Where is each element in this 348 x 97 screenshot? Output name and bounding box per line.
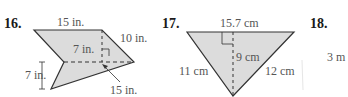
problem-16-base-label: 15 in. <box>110 83 137 97</box>
problem-16-inner-height-label: 7 in. <box>73 42 94 57</box>
problem-17-right-label: 12 cm <box>265 64 295 79</box>
problem-18-side-label: 3 m <box>327 50 345 65</box>
problem-17-left-label: 11 cm <box>179 64 208 79</box>
problem-17-top-label: 15.7 cm <box>220 16 259 31</box>
problem-16-number: 16. <box>4 16 22 32</box>
problem-16-top-label: 15 in. <box>57 15 84 30</box>
figure-16-shape <box>34 30 134 89</box>
problem-18-number: 18. <box>310 16 328 32</box>
figures-canvas <box>0 0 348 97</box>
figure-18-shape <box>302 60 303 90</box>
problem-17-height-label: 9 cm <box>236 50 260 65</box>
problem-17-number: 17. <box>162 16 180 32</box>
problem-16-left-height-label: 7 in. <box>25 68 46 83</box>
problem-16-right-label: 10 in. <box>120 31 147 46</box>
